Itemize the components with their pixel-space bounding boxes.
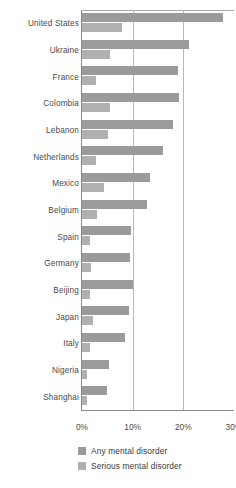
bar-serious (82, 156, 96, 165)
x-axis-tick-labels: 0%10%20%30% (0, 422, 236, 436)
chart-row: Nigeria (0, 357, 236, 384)
bar-any (82, 386, 107, 395)
bar-serious (82, 130, 108, 139)
bar-serious (82, 103, 110, 112)
category-label: Belgium (48, 205, 79, 214)
category-label: Germany (44, 259, 79, 268)
bar-group (82, 250, 234, 277)
chart-row: United States (0, 10, 236, 37)
bar-any (82, 360, 109, 369)
bar-any (82, 253, 130, 262)
legend-swatch-serious (78, 462, 86, 470)
bar-group (82, 143, 234, 170)
bar-any (82, 226, 131, 235)
bar-any (82, 13, 223, 22)
legend-item: Serious mental disorder (78, 460, 236, 472)
chart-row: Shanghai (0, 383, 236, 410)
chart-row: Lebanon (0, 117, 236, 144)
bar-group (82, 383, 234, 410)
bar-serious (82, 290, 90, 299)
category-label: Italy (63, 339, 79, 348)
category-label: Lebanon (46, 125, 79, 134)
chart-row: Germany (0, 250, 236, 277)
bar-group (82, 170, 234, 197)
category-label: Ukraine (50, 45, 79, 54)
bar-group (82, 10, 234, 37)
bar-serious (82, 343, 90, 352)
bar-serious (82, 236, 90, 245)
category-label: Spain (57, 232, 79, 241)
bar-any (82, 146, 163, 155)
bar-chart: United StatesUkraineFranceColombiaLebano… (0, 0, 236, 488)
bar-serious (82, 316, 93, 325)
legend-label: Serious mental disorder (91, 461, 182, 471)
bar-group (82, 277, 234, 304)
bar-any (82, 280, 133, 289)
bar-serious (82, 76, 96, 85)
bar-group (82, 303, 234, 330)
legend-label: Any mental disorder (91, 446, 167, 456)
chart-row: Beijing (0, 277, 236, 304)
plot-area: United StatesUkraineFranceColombiaLebano… (0, 10, 236, 420)
bar-serious (82, 23, 122, 32)
x-tick-20pct: 20% (175, 422, 192, 432)
legend-item: Any mental disorder (78, 445, 236, 457)
category-label: Mexico (52, 179, 79, 188)
category-label: Colombia (43, 99, 79, 108)
bar-any (82, 66, 178, 75)
chart-row: Ukraine (0, 37, 236, 64)
category-label: Beijing (53, 285, 79, 294)
category-label: United States (28, 19, 79, 28)
chart-row: Japan (0, 303, 236, 330)
chart-legend: Any mental disorderSerious mental disord… (0, 445, 236, 475)
chart-rows: United StatesUkraineFranceColombiaLebano… (0, 10, 236, 410)
category-label: France (53, 72, 79, 81)
category-label: Nigeria (52, 365, 79, 374)
chart-row: Italy (0, 330, 236, 357)
bar-serious (82, 50, 110, 59)
chart-row: Belgium (0, 197, 236, 224)
x-tick-0pct: 0% (76, 422, 88, 432)
bar-group (82, 63, 234, 90)
bar-serious (82, 210, 97, 219)
bar-group (82, 197, 234, 224)
bar-serious (82, 183, 104, 192)
x-axis-line (81, 410, 234, 411)
bar-any (82, 173, 150, 182)
bar-serious (82, 370, 87, 379)
bar-group (82, 117, 234, 144)
bar-serious (82, 263, 91, 272)
legend-swatch-any (78, 447, 86, 455)
chart-row: Mexico (0, 170, 236, 197)
chart-row: Netherlands (0, 143, 236, 170)
category-label: Japan (56, 312, 79, 321)
chart-row: Colombia (0, 90, 236, 117)
x-tick-30pct: 30% (226, 422, 236, 432)
bar-any (82, 120, 173, 129)
chart-row: France (0, 63, 236, 90)
bar-group (82, 330, 234, 357)
chart-row: Spain (0, 223, 236, 250)
category-label: Netherlands (33, 152, 79, 161)
bar-group (82, 37, 234, 64)
bar-any (82, 200, 147, 209)
bar-any (82, 93, 179, 102)
bar-any (82, 40, 189, 49)
bar-group (82, 357, 234, 384)
bar-serious (82, 396, 87, 405)
bar-any (82, 333, 125, 342)
bar-any (82, 306, 129, 315)
category-label: Shanghai (43, 392, 79, 401)
bar-group (82, 90, 234, 117)
x-tick-10pct: 10% (124, 422, 141, 432)
bar-group (82, 223, 234, 250)
